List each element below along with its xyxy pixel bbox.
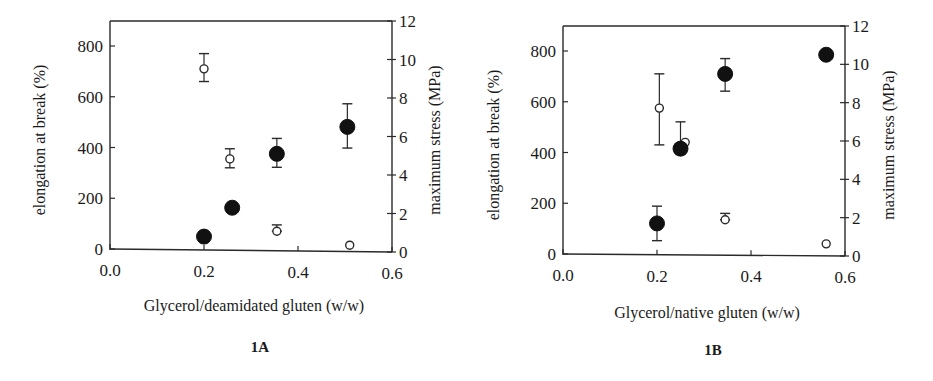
x-axis-title: Glycerol/deamidated gluten (w/w) xyxy=(144,297,364,315)
y-tick-label: 0 xyxy=(95,240,104,259)
y2-tick-label: 4 xyxy=(399,166,408,185)
y2-tick-label: 6 xyxy=(399,128,408,147)
y2-tick-label: 6 xyxy=(852,132,861,151)
y-tick-label: 600 xyxy=(78,88,104,107)
y2-tick-label: 2 xyxy=(852,209,861,228)
y-tick-label: 600 xyxy=(531,93,557,112)
panel-label: 1A xyxy=(251,339,270,355)
data-point-open xyxy=(226,155,234,163)
x-axis-title: Glycerol/native gluten (w/w) xyxy=(614,304,800,322)
x-tick-label: 0.4 xyxy=(287,263,309,282)
y-tick-label: 400 xyxy=(78,139,104,158)
y2-tick-label: 0 xyxy=(399,243,408,262)
x-tick-label: 0.0 xyxy=(552,266,573,285)
y-tick-label: 400 xyxy=(531,144,557,163)
series-max-stress xyxy=(650,47,834,240)
y-tick-label: 800 xyxy=(531,42,557,61)
y2-tick-label: 12 xyxy=(399,12,416,31)
y2-tick-label: 4 xyxy=(852,170,861,189)
plot-frame xyxy=(563,26,845,256)
scatter-plot-1a: 0.00.20.40.60200400600800024681012elonga… xyxy=(0,0,466,381)
data-point-filled xyxy=(650,216,665,231)
y-axis-title: elongation at break (%) xyxy=(485,70,503,221)
data-point-filled xyxy=(197,229,212,244)
y-tick-label: 800 xyxy=(78,37,104,56)
data-point-filled xyxy=(718,66,733,81)
data-point-filled xyxy=(340,119,355,134)
y2-tick-label: 12 xyxy=(852,17,869,36)
y-tick-label: 0 xyxy=(548,245,557,264)
x-tick-label: 0.6 xyxy=(834,268,855,287)
y2-tick-label: 10 xyxy=(852,55,869,74)
plot-frame xyxy=(110,21,392,252)
y2-tick-label: 2 xyxy=(399,205,408,224)
y2-tick-label: 10 xyxy=(399,51,416,70)
y2-axis-title: maximum stress (MPa) xyxy=(880,70,898,219)
data-point-open xyxy=(346,241,354,249)
x-tick-label: 0.2 xyxy=(193,262,214,281)
data-point-open xyxy=(655,104,663,112)
y-axis-title: elongation at break (%) xyxy=(31,65,49,216)
x-tick-label: 0.4 xyxy=(740,267,762,286)
panel-label: 1B xyxy=(704,342,722,358)
data-point-open xyxy=(200,65,208,73)
data-point-filled xyxy=(269,146,284,161)
chart-panel-1b: 0.00.20.40.60200400600800024681012elonga… xyxy=(466,0,933,381)
y2-axis-title: maximum stress (MPa) xyxy=(426,65,444,214)
data-point-open xyxy=(721,216,729,224)
data-point-filled xyxy=(819,47,834,62)
x-tick-label: 0.0 xyxy=(99,261,120,280)
y-tick-label: 200 xyxy=(531,194,557,213)
x-tick-label: 0.6 xyxy=(381,264,402,283)
x-tick-label: 0.2 xyxy=(646,267,667,286)
chart-panel-1a: 0.00.20.40.60200400600800024681012elonga… xyxy=(0,0,466,381)
y2-tick-label: 8 xyxy=(399,89,408,108)
series-max-stress xyxy=(197,104,355,244)
scatter-plot-1b: 0.00.20.40.60200400600800024681012elonga… xyxy=(466,0,933,381)
y2-tick-label: 0 xyxy=(852,247,861,266)
data-point-filled xyxy=(673,141,688,156)
y2-tick-label: 8 xyxy=(852,94,861,113)
y-tick-label: 200 xyxy=(78,189,104,208)
data-point-filled xyxy=(225,200,240,215)
series-elongation xyxy=(654,74,830,248)
data-point-open xyxy=(273,227,281,235)
data-point-open xyxy=(822,240,830,248)
